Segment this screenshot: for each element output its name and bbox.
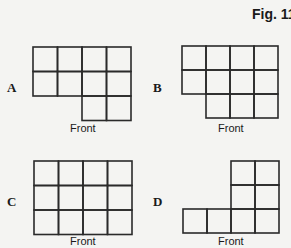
- grid-cell: [255, 185, 279, 209]
- grid-cell: [231, 185, 255, 209]
- grid-cell: [231, 161, 255, 185]
- grid-cell: [207, 209, 231, 233]
- option-d-front-label: Front: [218, 235, 244, 247]
- grid-cell: [231, 209, 255, 233]
- grid-cell: [183, 209, 207, 233]
- option-d-grid: [0, 0, 291, 248]
- grid-cell: [255, 209, 279, 233]
- grid-cell: [255, 161, 279, 185]
